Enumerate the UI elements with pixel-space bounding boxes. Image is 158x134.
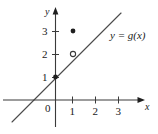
graph-figure: y x 0 1 2 3 1 2 3 y = g(x): [0, 0, 158, 134]
plot-canvas: [0, 0, 158, 134]
x-axis-label: x: [145, 102, 149, 112]
filled-point-above: [71, 29, 76, 34]
x-tick-label-3: 3: [116, 106, 122, 117]
x-tick-label-2: 2: [93, 106, 99, 117]
origin-label: 0: [45, 103, 51, 114]
y-axis-arrowhead: [53, 7, 59, 15]
y-tick-label-3: 3: [42, 26, 48, 37]
curve-label-g: y = g(x): [110, 30, 146, 41]
y-axis-label: y: [45, 7, 49, 17]
function-line-g: [12, 13, 121, 122]
x-tick-label-1: 1: [70, 106, 76, 117]
filled-point-intercept: [53, 75, 58, 80]
open-point-on-line: [70, 51, 75, 56]
y-tick-label-2: 2: [42, 49, 48, 60]
x-axis-arrowhead: [138, 97, 146, 103]
y-tick-label-1: 1: [42, 72, 48, 83]
